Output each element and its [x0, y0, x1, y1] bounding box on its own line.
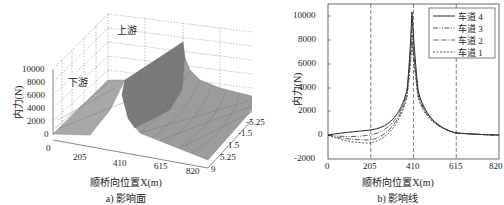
z-axis-label: 内力(N) — [10, 78, 25, 128]
y-tick: 0 — [318, 129, 323, 139]
y-axis-label: 内力(N) — [289, 65, 304, 115]
y-tick: 5.25 — [220, 152, 236, 162]
x-tick: 820 — [489, 161, 503, 171]
influence-surface-panel: 10000 8000 6000 4000 2000 0 内力(N) 0 205 … — [0, 0, 252, 205]
y-tick: -1.5 — [238, 128, 252, 138]
z-tick: 2000 — [27, 116, 45, 126]
y-tick-marks — [328, 16, 331, 135]
y-tick: 10000 — [293, 10, 316, 20]
influence-line-panel: 车道 4 车道 3 车道 2 车道 1 10000 8000 6000 4000… — [252, 0, 504, 205]
legend-label-lane-1: 车道 1 — [458, 46, 483, 59]
z-tick: 8000 — [27, 77, 45, 87]
z-tick: 10000 — [22, 64, 45, 74]
y-tick: 1.5 — [228, 140, 239, 150]
z-tick: 6000 — [27, 90, 45, 100]
x-axis-label: 顺桥向位置X(m) — [0, 174, 252, 189]
y-tick: 9 — [211, 164, 216, 174]
upstream-label: 上游 — [117, 22, 137, 37]
panel-caption: b) 影响线 — [288, 190, 504, 205]
x-axis-label: 顺桥向位置X(m) — [288, 174, 504, 189]
panel-caption: a) 影响面 — [0, 190, 252, 205]
y-tick: 8000 — [298, 34, 316, 44]
x-tick: 205 — [363, 161, 377, 171]
x-tick: 0 — [325, 161, 330, 171]
x-tick: 410 — [113, 158, 127, 168]
x-tick: 615 — [449, 161, 463, 171]
z-tick: 4000 — [27, 103, 45, 113]
x-tick: 410 — [406, 161, 420, 171]
x-tick: 205 — [73, 152, 87, 162]
x-tick: 0 — [46, 143, 51, 153]
y-tick: -2000 — [294, 153, 315, 163]
x-tick: 615 — [154, 161, 168, 171]
z-tick: 0 — [44, 129, 49, 139]
downstream-label: 下游 — [68, 74, 88, 89]
